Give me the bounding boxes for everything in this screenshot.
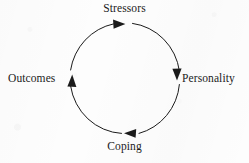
node-label-personality: Personality xyxy=(182,72,235,85)
arrowhead-up-icon xyxy=(67,75,76,87)
arrowhead-right-icon xyxy=(113,20,125,29)
cycle-ring xyxy=(71,23,180,133)
arc-stressors-to-personality xyxy=(133,23,180,71)
cycle-arrowheads xyxy=(67,20,181,138)
arc-outcomes-to-stressors xyxy=(71,24,114,70)
arc-personality-to-coping xyxy=(139,85,179,134)
node-label-outcomes: Outcomes xyxy=(8,72,55,85)
arrowhead-down-icon xyxy=(172,68,181,80)
arrowhead-left-icon xyxy=(124,129,136,138)
arc-coping-to-outcomes xyxy=(71,86,122,133)
node-label-coping: Coping xyxy=(0,140,249,153)
cycle-diagram: Stressors Personality Coping Outcomes xyxy=(0,0,249,163)
node-label-stressors: Stressors xyxy=(0,2,249,15)
